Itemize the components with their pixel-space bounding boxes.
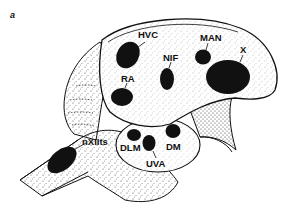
- label-hvc: HVC: [138, 29, 158, 40]
- label-man: MAN: [200, 32, 222, 43]
- label-nxiits: nXIIts: [82, 136, 108, 147]
- label-x: X: [240, 44, 247, 55]
- label-ra: RA: [121, 73, 135, 84]
- label-dm: DM: [166, 141, 181, 152]
- label-nif: NIF: [163, 52, 179, 63]
- label-dlm: DLM: [120, 142, 141, 153]
- label-uva: UVA: [146, 158, 165, 169]
- brain-diagram: HVC MAN NIF X RA nXIIts DLM UVA DM: [0, 0, 297, 215]
